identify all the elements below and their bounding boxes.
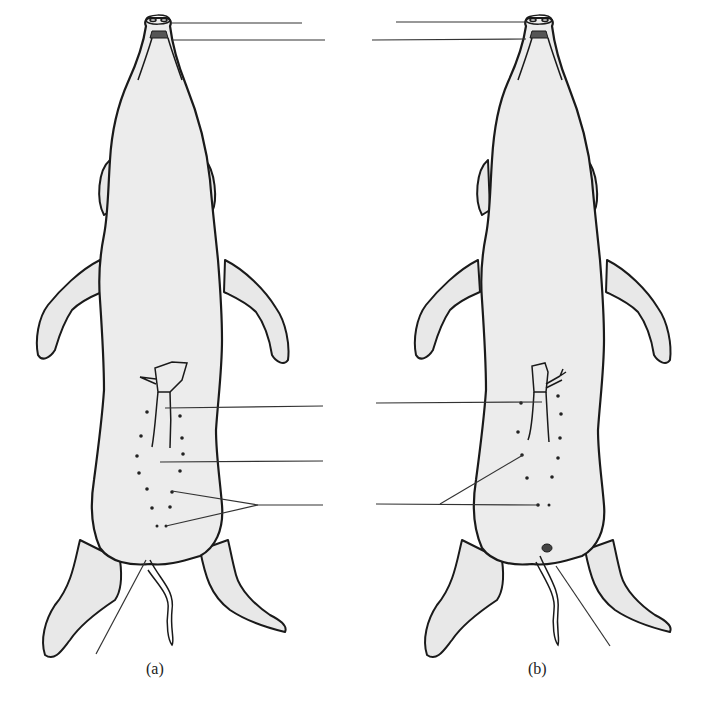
right-foreleg [224,260,289,363]
torso [92,18,222,565]
urogenital-papilla [542,544,552,552]
tail [536,556,559,645]
mouth [530,31,548,38]
right-hindleg [585,540,671,632]
caption-b: (b) [528,660,547,678]
right-hindleg [200,540,286,632]
left-ear [477,160,490,215]
fetal-pig-diagram: (a) (b) [0,0,713,714]
pig-b [372,15,671,657]
mouth [150,31,168,38]
pig-a [37,15,325,657]
left-foreleg [415,260,480,359]
tail [148,560,173,645]
caption-a: (a) [146,660,164,678]
left-foreleg [37,260,102,359]
torso [474,18,604,565]
right-foreleg [606,260,671,363]
